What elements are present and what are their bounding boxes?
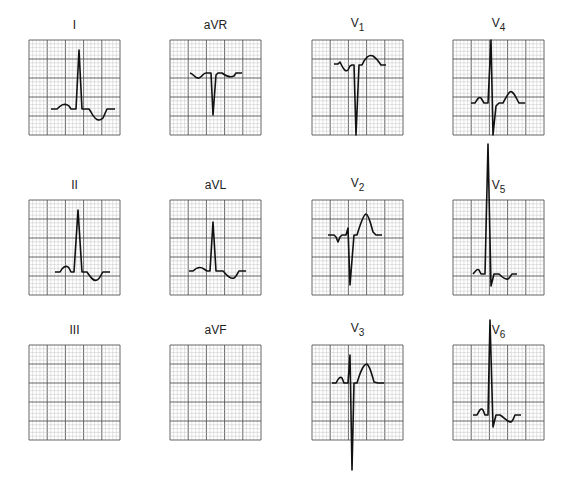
- lead-label-avr: aVR: [170, 18, 261, 32]
- ecg-trace-v3: [332, 355, 384, 470]
- ecg-trace-v4: [471, 40, 525, 135]
- lead-label-avf: aVF: [170, 323, 261, 337]
- lead-label-v4: V4: [453, 16, 544, 33]
- ecg-panel-v3: [312, 345, 403, 440]
- lead-label-iii: III: [29, 323, 120, 337]
- lead-label-v5: V5: [453, 178, 544, 195]
- lead-label-i: I: [29, 18, 120, 32]
- ecg-panel-v1: [312, 40, 403, 135]
- ecg-trace-avr: [190, 73, 242, 115]
- lead-label-ii: II: [29, 178, 120, 192]
- lead-label-v6: V6: [453, 323, 544, 340]
- ecg-panel-avf: [170, 345, 261, 440]
- lead-label-avl: aVL: [170, 178, 261, 192]
- ecg-panel-v5: [453, 200, 544, 295]
- ecg-trace-v1: [334, 55, 386, 135]
- ecg-panel-i: [29, 40, 120, 135]
- ecg-panel-avr: [170, 40, 261, 135]
- ecg-panel-iii: [29, 345, 120, 440]
- ecg-panel-avl: [170, 200, 261, 295]
- ecg-panel-v4: [453, 40, 544, 135]
- lead-label-v1: V1: [312, 16, 403, 33]
- ecg-panel-ii: [29, 200, 120, 295]
- ecg-panel-v6: [453, 345, 544, 440]
- lead-label-v2: V2: [312, 176, 403, 193]
- lead-label-v3: V3: [312, 321, 403, 338]
- ecg-panel-v2: [312, 200, 403, 295]
